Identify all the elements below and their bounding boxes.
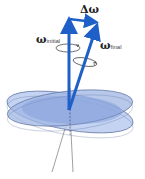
delta-omega-label: Δω xyxy=(80,4,99,15)
omega-initial-label: ωinitial xyxy=(36,30,60,46)
diagram-graphics xyxy=(0,0,145,179)
precession-diagram: Δω ωinitial ωfinal xyxy=(0,0,145,179)
delta-omega-vector xyxy=(69,19,94,22)
omega-final-label: ωfinal xyxy=(100,36,122,52)
